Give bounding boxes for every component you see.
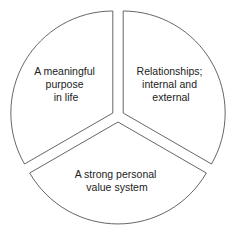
segment-values-label: A strong personal value system — [75, 168, 160, 193]
segment-purpose-line-2: purpose — [46, 78, 84, 90]
segment-values-line-2: value system — [86, 181, 148, 193]
segment-relationships-line-2: internal and — [142, 78, 197, 90]
three-segment-pie-diagram: A meaningful purpose in life Relationshi… — [0, 0, 232, 226]
segment-relationships-line-3: external — [152, 91, 189, 103]
segment-purpose-line-1: A meaningful — [34, 65, 95, 77]
segment-values-line-1: A strong personal — [75, 168, 157, 180]
segment-relationships-line-1: Relationships; — [137, 65, 203, 77]
segment-purpose-line-3: in life — [54, 91, 79, 103]
